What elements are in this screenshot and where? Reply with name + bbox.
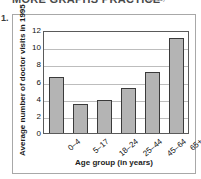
question-number: 1.	[1, 13, 9, 23]
y-axis-tick-label: 2	[29, 113, 41, 121]
bar	[49, 77, 64, 133]
bar	[121, 88, 136, 133]
page-header-title: MORE GRAPHS PRACTICE	[12, 0, 160, 5]
worksheet-page: MORE GRAPHS PRACTICE (p. 11) 1. Average …	[0, 0, 201, 179]
y-axis-tick-label: 8	[29, 61, 41, 69]
bar-series	[44, 32, 188, 133]
y-axis-tick-label: 6	[29, 79, 41, 87]
y-axis-tick-label: 12	[29, 27, 41, 35]
chart-figure-panel: Average number of doctor visits in 1995 …	[12, 14, 196, 174]
x-axis-title: Age group (in years)	[35, 158, 193, 167]
y-axis-tick-labels: 121086420	[27, 31, 41, 134]
bar	[73, 104, 88, 133]
plot-area	[43, 31, 189, 134]
bar	[97, 100, 112, 133]
y-axis-tick-label: 0	[29, 130, 41, 138]
bar	[145, 72, 160, 133]
x-axis-tick-label: 65+	[188, 137, 201, 153]
page-header-subtitle: (p. 11)	[148, 0, 165, 2]
bar	[169, 38, 184, 133]
y-axis-tick-label: 10	[29, 44, 41, 52]
page-header-strip: MORE GRAPHS PRACTICE (p. 11)	[0, 0, 201, 9]
y-axis-tick-label: 4	[29, 96, 41, 104]
